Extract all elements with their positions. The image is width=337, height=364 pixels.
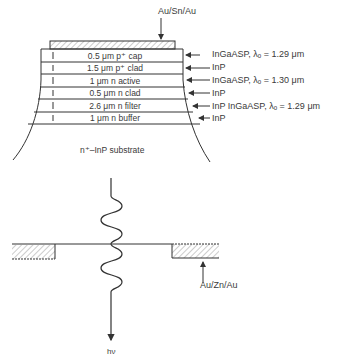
material-label-buffer: InP: [212, 113, 226, 123]
layer-label-n-clad: 0.5 μm n clad: [60, 88, 170, 98]
layer-label-active: 1 μm n active: [60, 76, 170, 86]
material-label-filter: InP InGaASP, λₒ = 1.29 μm: [212, 101, 320, 111]
layer-label-buffer: 1 μm n buffer: [60, 113, 170, 123]
emission-label: hν: [107, 347, 115, 357]
layer-label-p-clad: 1.5 μm p⁺ clad: [60, 63, 170, 73]
layer-label-arrows: [186, 55, 210, 118]
top-contact: [50, 18, 175, 49]
material-label-n-clad: InP: [212, 88, 226, 98]
emission-wave-arrow: [101, 178, 122, 340]
layer-label-cap: 0.5 μm p⁺ cap: [60, 51, 170, 61]
layer-label-filter: 2.6 μm n filter: [60, 101, 170, 111]
substrate-label: n⁺–InP substrate: [80, 145, 144, 155]
top-contact-label: Au/Sn/Au: [158, 6, 196, 16]
material-label-cap: InGaASP, λₒ = 1.29 μm: [212, 49, 304, 59]
material-label-p-clad: InP: [212, 62, 226, 72]
material-label-active: InGaASP, λₒ = 1.30 μm: [212, 75, 304, 85]
led-structure-diagram: Au/Sn/Au 0.5 μm p⁺ cap 1.5 μm p⁺ clad 1 …: [0, 0, 337, 364]
bottom-contact: [12, 244, 219, 283]
bottom-contact-label: Au/Zn/Au: [200, 280, 238, 290]
